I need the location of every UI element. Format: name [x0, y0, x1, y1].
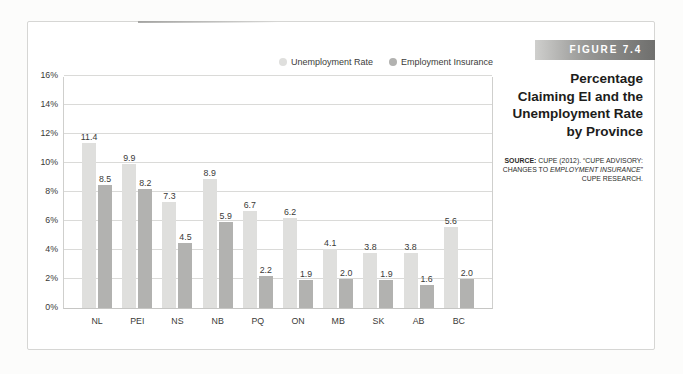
- y-axis-tick-label: 10%: [28, 157, 58, 167]
- x-axis-category-label: PEI: [130, 316, 144, 326]
- bar-value-label: 4.5: [179, 232, 191, 242]
- bar-unemployment-rate: 3.8: [363, 253, 377, 308]
- x-axis-category-label: BC: [453, 316, 465, 326]
- plot-area: 0%2%4%6%8%10%12%14%16%11.48.5NL9.98.2PEI…: [63, 77, 493, 309]
- y-axis-tick-label: 6%: [28, 215, 58, 225]
- bar-value-label: 9.9: [123, 153, 135, 163]
- legend-circle-icon: [279, 58, 287, 66]
- bar-employment-insurance: 8.5: [98, 185, 112, 308]
- legend-circle-icon: [389, 58, 397, 66]
- bar-unemployment-rate: 6.7: [243, 211, 257, 308]
- bar-unemployment-rate: 8.9: [203, 179, 217, 308]
- chart-legend: Unemployment Rate Employment Insurance: [63, 55, 493, 68]
- bar-group-bc: 5.62.0BC: [444, 77, 474, 308]
- source-label: SOURCE:: [505, 157, 537, 164]
- bar-group-ab: 3.81.6AB: [404, 77, 434, 308]
- bar-unemployment-rate: 7.3: [162, 202, 176, 308]
- bar-unemployment-rate: 9.9: [122, 164, 136, 308]
- bar-unemployment-rate: 4.1: [323, 249, 337, 308]
- x-axis-category-label: NB: [212, 316, 224, 326]
- y-axis-tick-label: 12%: [28, 128, 58, 138]
- y-axis-tick-label: 16%: [28, 70, 58, 80]
- bar-group-mb: 4.12.0MB: [323, 77, 353, 308]
- bar-employment-insurance: 2.0: [460, 279, 474, 308]
- bar-value-label: 1.9: [300, 269, 312, 279]
- bar-value-label: 3.8: [364, 242, 376, 252]
- x-axis-category-label: AB: [413, 316, 425, 326]
- legend-label: Employment Insurance: [401, 57, 493, 67]
- y-axis-tick-label: 0%: [28, 302, 58, 312]
- bar-group-nb: 8.95.9NB: [203, 77, 233, 308]
- bar-group-ns: 7.34.5NS: [162, 77, 192, 308]
- figure-number-band: FIGURE 7.4: [535, 40, 655, 60]
- scan-artifact-faint-edge: [138, 21, 278, 23]
- scanned-page: FIGURE 7.4 Percentage Claiming EI and th…: [0, 0, 683, 374]
- bar-group-pei: 9.98.2PEI: [122, 77, 152, 308]
- scan-artifact-dark-edge: [27, 20, 119, 24]
- bar-employment-insurance: 5.9: [219, 222, 233, 308]
- bar-unemployment-rate: 6.2: [283, 218, 297, 308]
- x-axis-category-label: NL: [91, 316, 102, 326]
- bar-unemployment-rate: 11.4: [82, 143, 96, 308]
- bar-value-label: 3.8: [404, 242, 416, 252]
- y-axis-tick-label: 2%: [28, 273, 58, 283]
- bar-employment-insurance: 8.2: [138, 189, 152, 308]
- y-axis-tick-label: 14%: [28, 99, 58, 109]
- figure-card: FIGURE 7.4 Percentage Claiming EI and th…: [27, 21, 655, 350]
- bar-value-label: 6.2: [284, 207, 296, 217]
- source-text-italic: EMPLOYMENT INSURANCE: [550, 166, 641, 173]
- bar-groups: 11.48.5NL9.98.2PEI7.34.5NS8.95.9NB6.72.2…: [64, 77, 492, 308]
- x-axis-category-label: ON: [291, 316, 304, 326]
- bar-group-pq: 6.72.2PQ: [243, 77, 273, 308]
- bar-employment-insurance: 1.9: [379, 280, 393, 308]
- bar-value-label: 2.0: [461, 268, 473, 278]
- bar-value-label: 2.0: [340, 268, 352, 278]
- bar-value-label: 8.5: [99, 174, 111, 184]
- bar-group-nl: 11.48.5NL: [82, 77, 112, 308]
- legend-label: Unemployment Rate: [291, 57, 373, 67]
- x-axis-category-label: SK: [373, 316, 385, 326]
- bar-value-label: 7.3: [163, 191, 175, 201]
- bar-employment-insurance: 1.6: [420, 285, 434, 308]
- bar-value-label: 5.6: [445, 216, 457, 226]
- bar-unemployment-rate: 3.8: [404, 253, 418, 308]
- gridline: [64, 75, 492, 76]
- x-axis-category-label: NS: [171, 316, 183, 326]
- bar-value-label: 1.9: [380, 269, 392, 279]
- bar-value-label: 8.2: [139, 178, 151, 188]
- bar-employment-insurance: 1.9: [299, 280, 313, 308]
- legend-item-employment-insurance: Employment Insurance: [389, 57, 493, 67]
- bar-group-on: 6.21.9ON: [283, 77, 313, 308]
- bar-unemployment-rate: 5.6: [444, 227, 458, 308]
- x-axis-category-label: MB: [332, 316, 345, 326]
- bar-group-sk: 3.81.9SK: [363, 77, 393, 308]
- bar-employment-insurance: 2.0: [339, 279, 353, 308]
- bar-value-label: 11.4: [81, 132, 97, 142]
- figure-number-label: FIGURE 7.4: [570, 44, 642, 55]
- bar-value-label: 6.7: [244, 200, 256, 210]
- bar-employment-insurance: 4.5: [178, 243, 192, 308]
- source-note: SOURCE: CUPE (2012). “CUPE ADVISORY: CHA…: [491, 157, 643, 183]
- bar-value-label: 2.2: [260, 265, 272, 275]
- x-axis-category-label: PQ: [251, 316, 264, 326]
- bar-employment-insurance: 2.2: [259, 276, 273, 308]
- bar-value-label: 8.9: [204, 168, 216, 178]
- bar-value-label: 1.6: [420, 274, 432, 284]
- legend-item-unemployment-rate: Unemployment Rate: [279, 57, 373, 67]
- y-axis-tick-label: 4%: [28, 244, 58, 254]
- bar-value-label: 5.9: [220, 211, 232, 221]
- bar-value-label: 4.1: [324, 238, 336, 248]
- y-axis-tick-label: 8%: [28, 186, 58, 196]
